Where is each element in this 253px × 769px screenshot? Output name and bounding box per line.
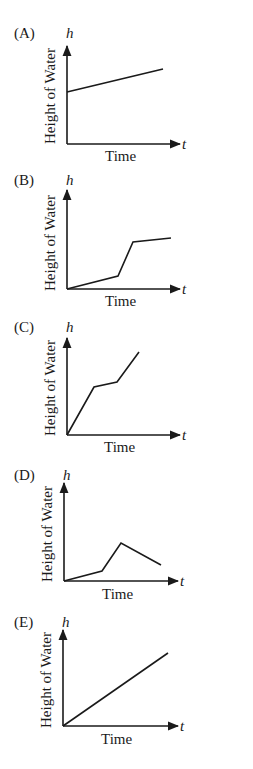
y-axis-symbol: h [66, 319, 74, 335]
answer-choice-graphs: (A) h t Time Height of Water (B) h t Tim… [0, 0, 253, 769]
option-label: (A) [14, 25, 35, 42]
height-curve [67, 238, 171, 289]
graph-c: (C) h t Time Height of Water [14, 319, 187, 455]
x-axis-symbol: t [182, 281, 187, 297]
x-axis-label: Time [104, 439, 135, 455]
y-axis-label: Height of Water [39, 486, 55, 582]
y-axis-label: Height of Water [42, 195, 58, 291]
x-axis-symbol: t [180, 718, 185, 734]
graph-d: (D) h t Time Height of Water [14, 467, 185, 602]
graph-e: (E) h t Time Height of Water [14, 614, 185, 747]
y-axis-symbol: h [66, 172, 74, 188]
option-label: (B) [14, 172, 34, 189]
x-axis-symbol: t [180, 573, 185, 589]
y-axis-symbol: h [63, 467, 71, 483]
y-axis-symbol: h [62, 614, 70, 630]
x-axis-symbol: t [182, 136, 187, 152]
x-axis-label: Time [101, 731, 132, 747]
x-axis-label: Time [105, 293, 136, 309]
option-label: (D) [14, 467, 35, 484]
graph-a: (A) h t Time Height of Water [14, 25, 187, 164]
height-curve [63, 653, 168, 726]
option-label: (C) [14, 319, 34, 336]
option-label: (E) [14, 614, 33, 631]
y-axis-symbol: h [66, 25, 74, 41]
height-curve [64, 543, 161, 581]
y-axis-label: Height of Water [38, 632, 54, 728]
height-curve [67, 69, 163, 92]
x-axis-symbol: t [182, 427, 187, 443]
graph-b: (B) h t Time Height of Water [14, 172, 187, 309]
y-axis-label: Height of Water [42, 48, 58, 144]
x-axis-label: Time [102, 586, 133, 602]
x-axis-label: Time [105, 148, 136, 164]
height-curve [67, 352, 139, 435]
y-axis-label: Height of Water [42, 340, 58, 436]
